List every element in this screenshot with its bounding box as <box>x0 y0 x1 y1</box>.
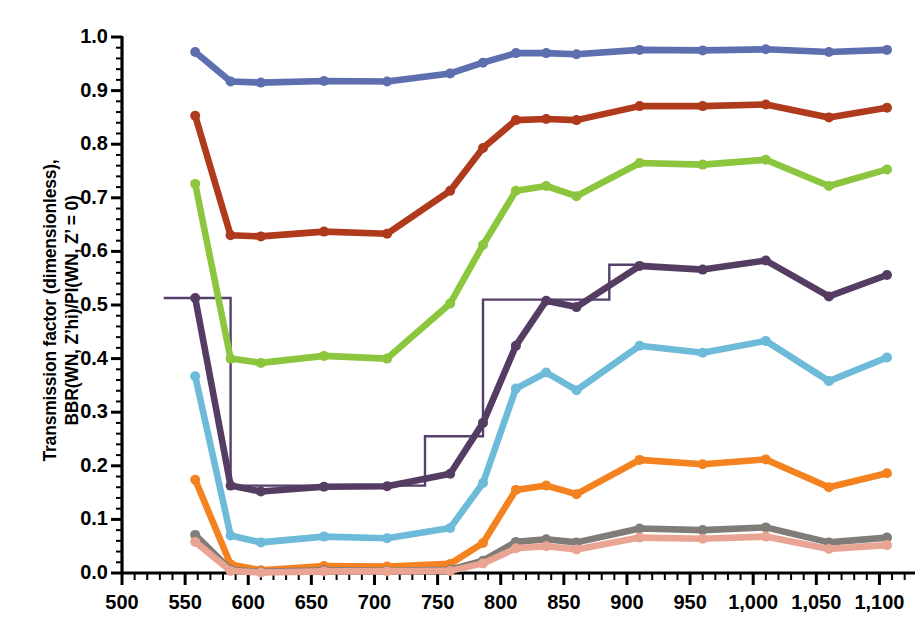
series-green-point <box>445 298 455 308</box>
series-green-point <box>319 351 329 361</box>
series-green-point <box>541 181 551 191</box>
series-green-line <box>195 160 887 363</box>
series-pink-point <box>445 566 455 576</box>
series-lightblue-point <box>319 532 329 542</box>
series-lightblue-point <box>382 533 392 543</box>
series-pink-point <box>635 533 645 543</box>
series-purple-point <box>478 418 488 428</box>
series-darkred-point <box>382 229 392 239</box>
series-green-point <box>190 179 200 189</box>
series-blue-point <box>511 48 521 58</box>
series-green-point <box>382 354 392 364</box>
series-pink-point <box>824 544 834 554</box>
series-green-point <box>511 186 521 196</box>
series-green-point <box>572 191 582 201</box>
series-blue-group <box>190 44 892 87</box>
series-purple-point <box>824 291 834 301</box>
series-lightblue-point <box>698 348 708 358</box>
series-lightblue-point <box>635 341 645 351</box>
series-lightblue-group <box>190 336 892 548</box>
series-gray-point <box>635 524 645 534</box>
x-tick-label: 1,100 <box>839 591 919 614</box>
series-purple-point <box>226 481 236 491</box>
series-lightblue-point <box>256 537 266 547</box>
y-tick-label: 0.0 <box>54 561 108 584</box>
series-green-group <box>190 155 892 368</box>
series-lightblue-point <box>541 368 551 378</box>
plot-area <box>0 0 921 643</box>
series-blue-point <box>445 68 455 78</box>
series-purple-point <box>572 302 582 312</box>
series-blue-point <box>824 47 834 57</box>
series-blue-point <box>226 77 236 87</box>
series-blue-point <box>882 45 892 55</box>
y-tick-label: 0.4 <box>54 347 108 370</box>
series-gray-point <box>698 525 708 535</box>
series-lightblue-point <box>445 523 455 533</box>
chart-root: Transmission factor (dimensionless), BBR… <box>0 0 921 643</box>
series-darkred-point <box>478 143 488 153</box>
series-lightblue-line <box>195 341 887 543</box>
series-purple-point <box>445 469 455 479</box>
series-pink-point <box>698 534 708 544</box>
y-tick-label: 0.8 <box>54 132 108 155</box>
y-tick-label: 0.3 <box>54 400 108 423</box>
y-tick-label: 0.1 <box>54 507 108 530</box>
series-darkred-point <box>541 114 551 124</box>
series-blue-point <box>761 44 771 54</box>
series-darkred-point <box>511 115 521 125</box>
series-pink-point <box>382 566 392 576</box>
series-green-point <box>882 164 892 174</box>
series-lightblue-point <box>478 478 488 488</box>
series-orange-point <box>824 482 834 492</box>
series-orange-group <box>190 454 892 575</box>
series-pink-point <box>226 566 236 576</box>
series-darkred-point <box>256 231 266 241</box>
series-purple-point <box>698 265 708 275</box>
series-orange-point <box>478 538 488 548</box>
series-purple-point <box>256 487 266 497</box>
series-blue-point <box>698 45 708 55</box>
series-purple-point <box>761 256 771 266</box>
series-orange-point <box>635 455 645 465</box>
series-purple-point <box>511 341 521 351</box>
series-darkred-point <box>882 103 892 113</box>
step-series-line <box>164 265 637 486</box>
y-tick-label: 1.0 <box>54 25 108 48</box>
series-green-point <box>226 354 236 364</box>
series-green-point <box>256 358 266 368</box>
y-tick-label: 0.7 <box>54 186 108 209</box>
series-orange-point <box>698 459 708 469</box>
series-purple-point <box>541 296 551 306</box>
series-blue-point <box>190 47 200 57</box>
series-blue-point <box>635 45 645 55</box>
series-pink-point <box>541 541 551 551</box>
series-lightblue-point <box>761 336 771 346</box>
series-darkred-point <box>445 186 455 196</box>
series-orange-point <box>572 489 582 499</box>
series-purple-point <box>882 270 892 280</box>
series-orange-point <box>761 454 771 464</box>
series-darkred-point <box>635 101 645 111</box>
series-blue-point <box>572 49 582 59</box>
series-blue-point <box>319 76 329 86</box>
chart-svg <box>0 0 921 643</box>
series-lightblue-point <box>511 384 521 394</box>
series-orange-line <box>195 459 887 570</box>
series-blue-point <box>256 78 266 88</box>
series-darkred-point <box>572 115 582 125</box>
series-blue-point <box>478 58 488 68</box>
series-darkred-point <box>824 112 834 122</box>
y-tick-label: 0.9 <box>54 79 108 102</box>
series-darkred-point <box>319 227 329 237</box>
series-orange-point <box>882 468 892 478</box>
series-lightblue-point <box>572 385 582 395</box>
series-pink-point <box>511 543 521 553</box>
series-darkred-point <box>698 101 708 111</box>
series-pink-point <box>572 544 582 554</box>
series-purple-point <box>190 293 200 303</box>
series-darkred-point <box>761 100 771 110</box>
series-lightblue-point <box>882 353 892 363</box>
series-lightblue-point <box>226 531 236 541</box>
series-darkred-point <box>190 111 200 121</box>
